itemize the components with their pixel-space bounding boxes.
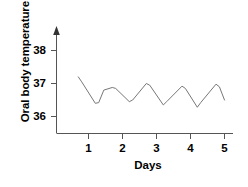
- y-axis-arrow-icon: [53, 26, 60, 35]
- x-tick-label-3: 3: [149, 143, 165, 155]
- y-tick-label-38: 38: [24, 45, 46, 57]
- x-tick-label-5: 5: [217, 143, 233, 155]
- x-tick-label-4: 4: [183, 143, 199, 155]
- y-axis-title-text: Oral body temperature (°C): [20, 0, 32, 122]
- x-tick-label-1: 1: [81, 143, 97, 155]
- x-tick-label-2: 2: [115, 143, 131, 155]
- y-tick-label-36: 36: [24, 111, 46, 123]
- x-axis-title-text: Days: [112, 160, 184, 172]
- y-tick-label-37: 37: [24, 78, 46, 90]
- temperature-chart: Oral body temperature (°C) Days 38 37 36…: [0, 0, 248, 187]
- temperature-line-series: [78, 77, 224, 107]
